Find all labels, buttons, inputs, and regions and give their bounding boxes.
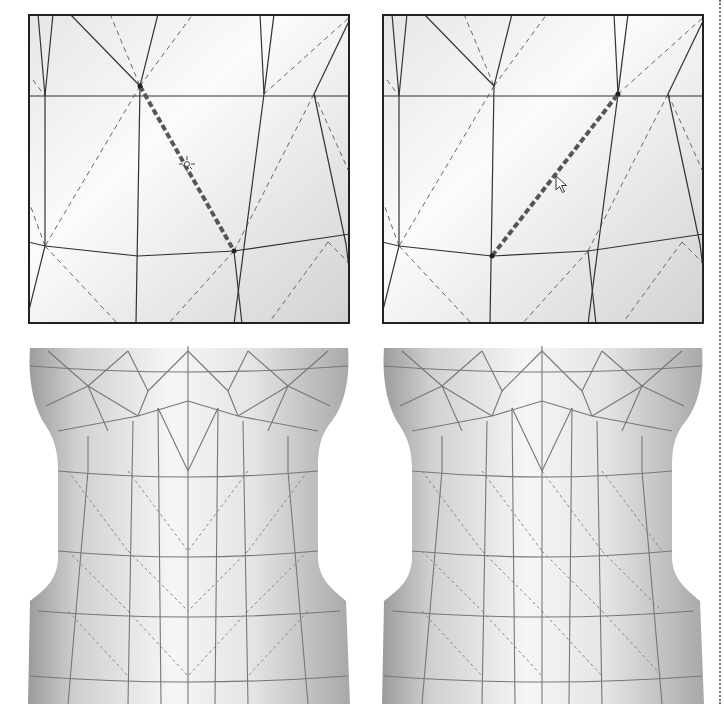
after-torso-panel bbox=[382, 346, 704, 704]
before-torso-panel bbox=[28, 346, 350, 704]
before-closeup-panel bbox=[28, 14, 350, 324]
before-torso-render bbox=[28, 346, 350, 704]
after-torso-render bbox=[382, 346, 704, 704]
after-closeup-panel bbox=[382, 14, 704, 324]
before-closeup-mesh bbox=[28, 14, 350, 324]
after-closeup-mesh bbox=[382, 14, 704, 324]
page-edge-dotted-line bbox=[719, 0, 721, 704]
